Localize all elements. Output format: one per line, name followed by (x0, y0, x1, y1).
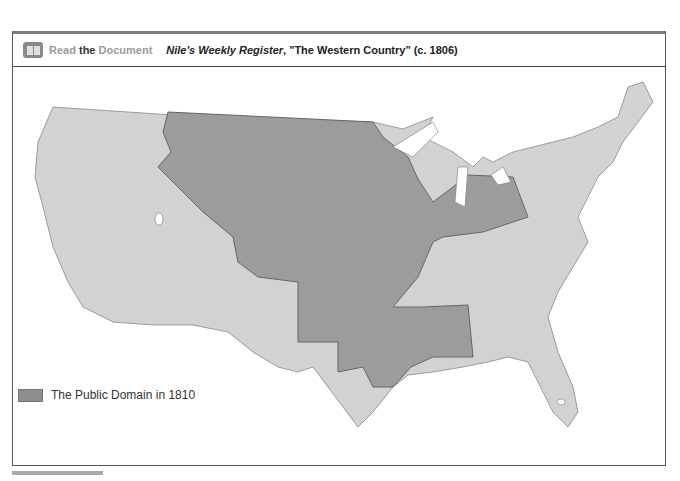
document-panel: Read the Document Nile's Weekly Register… (12, 31, 666, 466)
map-legend: The Public Domain in 1810 (18, 388, 195, 402)
lake-okeechobee (557, 399, 565, 405)
panel-header: Read the Document Nile's Weekly Register… (13, 34, 665, 67)
read-the-document-label[interactable]: Read the Document (49, 44, 152, 56)
great-salt-lake (155, 213, 163, 225)
book-icon[interactable] (23, 42, 43, 58)
document-title: Nile's Weekly Register, "The Western Cou… (166, 44, 457, 56)
legend-label: The Public Domain in 1810 (51, 388, 195, 402)
us-map (13, 67, 665, 467)
footer-bar (12, 471, 103, 475)
legend-swatch (18, 389, 43, 402)
